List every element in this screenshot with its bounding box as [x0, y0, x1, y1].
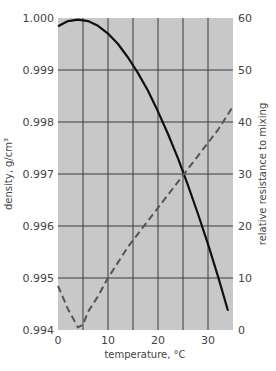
y2-tick-label: 0	[238, 324, 245, 337]
y-tick-label: 0.994	[23, 324, 55, 337]
y-tick-label: 1.000	[23, 12, 55, 25]
x-axis-ticks: 0102030	[55, 334, 216, 347]
y2-axis-ticks: 0102030405060	[238, 12, 252, 337]
x-tick-label: 0	[55, 334, 62, 347]
y2-tick-label: 40	[238, 116, 252, 129]
y2-tick-label: 30	[238, 168, 252, 181]
y-tick-label: 0.996	[23, 220, 55, 233]
y2-tick-label: 20	[238, 220, 252, 233]
y-tick-label: 0.995	[23, 272, 55, 285]
x-tick-label: 20	[151, 334, 165, 347]
y-tick-label: 0.997	[23, 168, 55, 181]
y-tick-label: 0.999	[23, 64, 55, 77]
y2-tick-label: 60	[238, 12, 252, 25]
density-resistance-chart: 0.9940.9950.9960.9970.9980.9991.000 0102…	[0, 0, 276, 371]
y-axis-ticks: 0.9940.9950.9960.9970.9980.9991.000	[23, 12, 55, 337]
y2-tick-label: 50	[238, 64, 252, 77]
x-axis-label: temperature, °C	[104, 349, 185, 360]
y-axis-label: density, g/cm³	[3, 138, 14, 210]
y2-axis-label: relative resistance to mixing	[257, 103, 268, 245]
x-tick-label: 10	[101, 334, 115, 347]
x-tick-label: 30	[201, 334, 215, 347]
y-tick-label: 0.998	[23, 116, 55, 129]
y2-tick-label: 10	[238, 272, 252, 285]
